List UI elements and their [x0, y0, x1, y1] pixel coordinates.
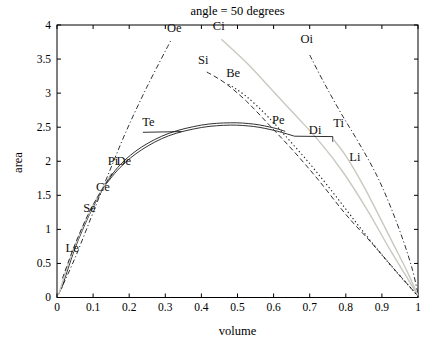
curve-label-Le: Le: [66, 241, 80, 255]
curve-label-Si: Si: [198, 53, 209, 67]
figure: 00.10.20.30.40.50.60.70.80.9100.511.522.…: [0, 0, 439, 349]
curve-label-Di: Di: [309, 123, 322, 137]
y-tick-label: 2.5: [37, 121, 52, 133]
chart-title: angle = 50 degrees: [57, 4, 418, 19]
y-tick-label: 2: [45, 155, 51, 167]
x-tick-label: 0.4: [194, 301, 209, 313]
Be-curve: [229, 84, 419, 296]
Te-line: [143, 132, 182, 133]
curve-label-Pe: Pe: [272, 113, 285, 127]
x-tick-label: 0.3: [158, 301, 173, 313]
curve-label-Be: Be: [226, 66, 240, 80]
curve-label-De: De: [116, 154, 131, 168]
curve-label-Se: Se: [83, 201, 96, 215]
x-tick-label: 0.6: [266, 301, 281, 313]
x-tick-label: 0.2: [122, 301, 137, 313]
curve-label-Ci: Ci: [213, 19, 225, 33]
y-tick-label: 4: [45, 19, 51, 31]
x-tick-label: 1: [415, 301, 421, 313]
Oi-curve: [310, 55, 418, 294]
x-tick-label: 0.9: [375, 301, 390, 313]
x-axis-label: volume: [57, 324, 418, 339]
y-tick-label: 0: [45, 291, 51, 303]
x-tick-label: 0.7: [303, 301, 318, 313]
y-tick-label: 1.5: [37, 189, 52, 201]
y-axis-label: area: [11, 133, 26, 193]
curve-label-Te: Te: [142, 115, 155, 129]
y-tick-label: 1: [45, 223, 51, 235]
x-tick-label: 0: [54, 301, 60, 313]
curve-label-Li: Li: [349, 150, 361, 164]
curve-label-Ce: Ce: [96, 180, 110, 194]
x-tick-label: 0.1: [86, 301, 101, 313]
x-tick-label: 0.5: [230, 301, 245, 313]
y-tick-label: 3.5: [37, 53, 52, 65]
Si-curve: [207, 72, 418, 296]
y-tick-label: 3: [45, 87, 51, 99]
curve-label-Oi: Oi: [301, 32, 314, 46]
curve-label-Ti: Ti: [333, 116, 344, 130]
y-tick-label: 0.5: [37, 257, 52, 269]
Ci-curve: [221, 39, 418, 295]
x-tick-label: 0.8: [339, 301, 354, 313]
chart-svg: 00.10.20.30.40.50.60.70.80.9100.511.522.…: [0, 0, 439, 349]
Li-gray-curve: [334, 140, 419, 296]
curve-label-Oe: Oe: [167, 21, 182, 35]
